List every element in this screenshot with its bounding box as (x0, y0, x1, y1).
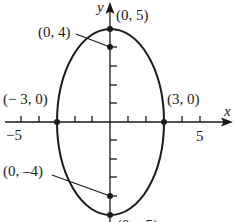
x-tick-label-5: 5 (196, 128, 204, 144)
x-axis (5, 116, 226, 122)
point-right-covertex (161, 119, 167, 125)
point-bottom-vertex (107, 212, 113, 218)
x-axis-label: x (223, 103, 231, 119)
leader-line-bottom-focus (52, 175, 110, 196)
point-top-focus (107, 44, 113, 50)
point-left-covertex (54, 119, 60, 125)
y-axis-label: y (95, 0, 104, 15)
label-top-vertex: (0, 5) (116, 7, 149, 24)
point-top-vertex (107, 26, 113, 32)
label-top-focus: (0, 4) (38, 24, 71, 41)
y-axis (110, 4, 117, 222)
label-right-covertex: (3, 0) (167, 91, 200, 108)
x-tick-label-neg5: −5 (6, 127, 22, 143)
point-bottom-focus (107, 193, 113, 199)
label-left-covertex: (− 3, 0) (3, 91, 48, 108)
label-bottom-vertex: (0, −5) (117, 217, 158, 222)
ellipse-diagram: y x −5 5 (0, 5) (0, 4) (− 3, 0) (3, 0) (… (0, 0, 236, 222)
label-bottom-focus: (0, –4) (3, 163, 43, 180)
